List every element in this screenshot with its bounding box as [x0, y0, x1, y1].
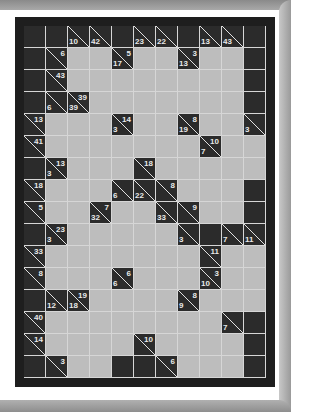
entry-cell[interactable]: [90, 356, 112, 378]
entry-cell[interactable]: [178, 158, 200, 180]
entry-cell[interactable]: [90, 312, 112, 334]
entry-cell[interactable]: [222, 92, 244, 114]
entry-cell[interactable]: [68, 334, 90, 356]
entry-cell[interactable]: [90, 158, 112, 180]
entry-cell[interactable]: [134, 70, 156, 92]
entry-cell[interactable]: [200, 114, 222, 136]
entry-cell[interactable]: [68, 158, 90, 180]
entry-cell[interactable]: [200, 158, 222, 180]
entry-cell[interactable]: [46, 114, 68, 136]
entry-cell[interactable]: [156, 70, 178, 92]
entry-cell[interactable]: [68, 224, 90, 246]
entry-cell[interactable]: [178, 356, 200, 378]
entry-cell[interactable]: [200, 334, 222, 356]
entry-cell[interactable]: [200, 202, 222, 224]
entry-cell[interactable]: [112, 224, 134, 246]
entry-cell[interactable]: [222, 70, 244, 92]
entry-cell[interactable]: [90, 114, 112, 136]
entry-cell[interactable]: [156, 48, 178, 70]
entry-cell[interactable]: [200, 180, 222, 202]
entry-cell[interactable]: [112, 312, 134, 334]
entry-cell[interactable]: [222, 48, 244, 70]
entry-cell[interactable]: [200, 48, 222, 70]
entry-cell[interactable]: [222, 268, 244, 290]
entry-cell[interactable]: [134, 202, 156, 224]
entry-cell[interactable]: [156, 290, 178, 312]
entry-cell[interactable]: [178, 334, 200, 356]
entry-cell[interactable]: [90, 334, 112, 356]
entry-cell[interactable]: [46, 246, 68, 268]
entry-cell[interactable]: [156, 114, 178, 136]
entry-cell[interactable]: [46, 334, 68, 356]
entry-cell[interactable]: [90, 92, 112, 114]
entry-cell[interactable]: [200, 290, 222, 312]
entry-cell[interactable]: [156, 158, 178, 180]
entry-cell[interactable]: [46, 136, 68, 158]
entry-cell[interactable]: [222, 334, 244, 356]
entry-cell[interactable]: [134, 268, 156, 290]
entry-cell[interactable]: [178, 268, 200, 290]
entry-cell[interactable]: [244, 290, 266, 312]
entry-cell[interactable]: [178, 180, 200, 202]
entry-cell[interactable]: [244, 158, 266, 180]
entry-cell[interactable]: [156, 92, 178, 114]
entry-cell[interactable]: [156, 312, 178, 334]
entry-cell[interactable]: [222, 158, 244, 180]
entry-cell[interactable]: [156, 334, 178, 356]
entry-cell[interactable]: [112, 334, 134, 356]
entry-cell[interactable]: [90, 136, 112, 158]
entry-cell[interactable]: [90, 224, 112, 246]
entry-cell[interactable]: [156, 268, 178, 290]
entry-cell[interactable]: [46, 180, 68, 202]
entry-cell[interactable]: [68, 356, 90, 378]
entry-cell[interactable]: [200, 70, 222, 92]
entry-cell[interactable]: [68, 202, 90, 224]
entry-cell[interactable]: [156, 136, 178, 158]
entry-cell[interactable]: [68, 268, 90, 290]
entry-cell[interactable]: [178, 136, 200, 158]
entry-cell[interactable]: [222, 246, 244, 268]
entry-cell[interactable]: [156, 246, 178, 268]
entry-cell[interactable]: [134, 136, 156, 158]
entry-cell[interactable]: [90, 268, 112, 290]
entry-cell[interactable]: [112, 246, 134, 268]
entry-cell[interactable]: [90, 180, 112, 202]
entry-cell[interactable]: [178, 312, 200, 334]
entry-cell[interactable]: [134, 290, 156, 312]
entry-cell[interactable]: [90, 290, 112, 312]
entry-cell[interactable]: [200, 312, 222, 334]
entry-cell[interactable]: [68, 312, 90, 334]
entry-cell[interactable]: [68, 70, 90, 92]
entry-cell[interactable]: [222, 356, 244, 378]
entry-cell[interactable]: [178, 92, 200, 114]
entry-cell[interactable]: [134, 246, 156, 268]
entry-cell[interactable]: [200, 356, 222, 378]
entry-cell[interactable]: [178, 70, 200, 92]
entry-cell[interactable]: [134, 114, 156, 136]
entry-cell[interactable]: [156, 224, 178, 246]
entry-cell[interactable]: [46, 268, 68, 290]
entry-cell[interactable]: [134, 92, 156, 114]
entry-cell[interactable]: [244, 136, 266, 158]
entry-cell[interactable]: [244, 246, 266, 268]
entry-cell[interactable]: [134, 312, 156, 334]
entry-cell[interactable]: [134, 48, 156, 70]
entry-cell[interactable]: [178, 246, 200, 268]
entry-cell[interactable]: [222, 180, 244, 202]
entry-cell[interactable]: [112, 158, 134, 180]
entry-cell[interactable]: [68, 114, 90, 136]
entry-cell[interactable]: [112, 92, 134, 114]
entry-cell[interactable]: [112, 70, 134, 92]
entry-cell[interactable]: [68, 136, 90, 158]
entry-cell[interactable]: [244, 268, 266, 290]
entry-cell[interactable]: [46, 312, 68, 334]
entry-cell[interactable]: [222, 202, 244, 224]
entry-cell[interactable]: [68, 48, 90, 70]
entry-cell[interactable]: [112, 136, 134, 158]
entry-cell[interactable]: [222, 136, 244, 158]
entry-cell[interactable]: [90, 70, 112, 92]
entry-cell[interactable]: [68, 246, 90, 268]
entry-cell[interactable]: [90, 48, 112, 70]
entry-cell[interactable]: [112, 290, 134, 312]
entry-cell[interactable]: [112, 202, 134, 224]
